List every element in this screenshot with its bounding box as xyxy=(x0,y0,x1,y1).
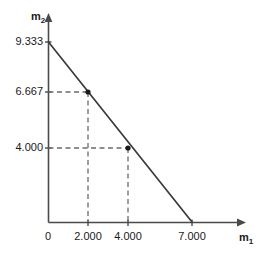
data-point-4000-4000 xyxy=(125,145,130,150)
guide-lines xyxy=(49,92,129,222)
y-axis-title: m2 xyxy=(31,10,45,25)
data-point-2000-6667 xyxy=(85,89,90,94)
x-axis xyxy=(49,219,247,227)
chart-container: m2 m1 9.333 6.667 4.000 0 2.000 4.000 7.… xyxy=(0,0,267,256)
y-tick-label-4000: 4.000 xyxy=(3,141,43,153)
x-axis-title-subscript: 1 xyxy=(249,237,253,246)
y-axis-title-subscript: 2 xyxy=(41,16,45,25)
x-tick-label-2000: 2.000 xyxy=(66,230,110,242)
x-axis-title: m1 xyxy=(239,231,253,246)
x-tick-label-4000: 4.000 xyxy=(106,230,150,242)
y-tick-label-9333: 9.333 xyxy=(3,35,43,47)
y-axis-arrow-icon xyxy=(45,13,53,22)
x-axis-arrow-icon xyxy=(237,219,246,227)
y-tick-label-6667: 6.667 xyxy=(3,85,43,97)
y-axis-title-text: m xyxy=(31,10,41,22)
series-budget-line xyxy=(49,42,193,222)
x-tick-label-7000: 7.000 xyxy=(170,230,214,242)
x-tick-label-0: 0 xyxy=(26,230,70,242)
x-axis-title-text: m xyxy=(239,231,249,243)
data-point-markers xyxy=(85,89,130,150)
